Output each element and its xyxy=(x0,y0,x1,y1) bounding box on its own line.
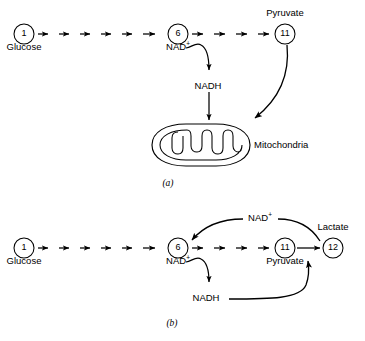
panel-b-node-6-number: 6 xyxy=(175,243,180,252)
panel-a-node-1-label: Glucose xyxy=(7,42,42,52)
panel-b-nadh-to-lactate-curve xyxy=(229,261,309,299)
mitochondrion-label: Mitochondria xyxy=(254,140,308,150)
panel-a-node-6-label: NAD+ xyxy=(166,42,190,52)
panel-b-node-12-label: Lactate xyxy=(317,222,348,232)
figure-root: 1 Glucose 6 NAD+ 11 Pyruvate NADH Mitoch… xyxy=(0,0,365,341)
panel-b-nadh-label: NADH xyxy=(193,293,220,303)
panel-a-caption: (a) xyxy=(162,178,173,188)
panel-b-node-1-number: 1 xyxy=(21,243,26,252)
panel-b-node-12-number: 12 xyxy=(328,243,338,252)
panel-b-node-11-label: Pyruvate xyxy=(266,256,304,266)
panel-b-caption: (b) xyxy=(166,318,177,328)
panel-b-node-6-label: NAD+ xyxy=(166,256,190,266)
panel-b-node-1-label: Glucose xyxy=(7,256,42,266)
panel-b-node-11-number: 11 xyxy=(280,243,289,252)
panel-a-node-11-number: 11 xyxy=(280,29,289,38)
panel-a-node-11-label: Pyruvate xyxy=(266,8,304,18)
panel-b-nad-plus-return-label: NAD+ xyxy=(248,213,272,223)
panel-a-pyruvate-to-mitochondrion-curve xyxy=(255,45,287,118)
panel-a-graphics xyxy=(14,24,295,166)
panel-a-nadh-label: NADH xyxy=(195,81,222,91)
panel-a-node-6-number: 6 xyxy=(175,29,180,38)
panel-b-nad-arc-left-segment xyxy=(192,219,243,240)
panel-a-node-1-number: 1 xyxy=(21,29,26,38)
